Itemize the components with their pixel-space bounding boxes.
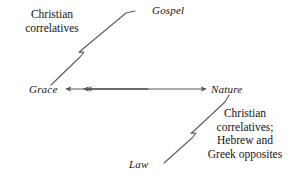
annotation-lower-right-line-2: correlatives; xyxy=(196,121,294,135)
annotation-lower-right-line-1: Christian xyxy=(196,107,294,121)
axis-label-gospel: Gospel xyxy=(152,4,184,16)
annotation-lower-right-line-4: Greek opposites xyxy=(196,148,294,162)
annotation-upper-left-line-2: correlatives xyxy=(6,22,98,36)
annotation-upper-left-line-1: Christian xyxy=(6,8,98,22)
annotation-upper-left: Christian correlatives xyxy=(6,8,98,35)
axis-label-grace: Grace xyxy=(29,83,58,95)
diagram-canvas: Gospel Law Grace Nature Christian correl… xyxy=(0,0,297,181)
axis-label-nature: Nature xyxy=(211,83,242,95)
axis-label-law: Law xyxy=(129,158,149,170)
annotation-lower-right: Christian correlatives; Hebrew and Greek… xyxy=(196,107,294,161)
annotation-lower-right-line-3: Hebrew and xyxy=(196,134,294,148)
